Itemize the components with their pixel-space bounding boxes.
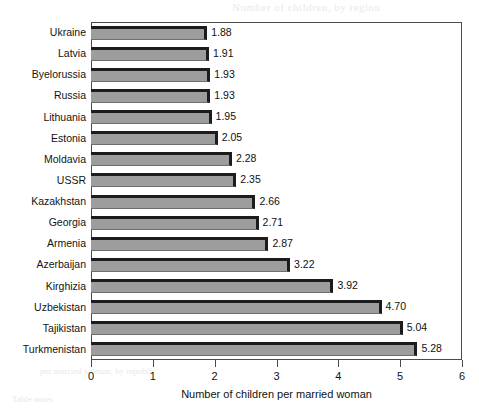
bar: [91, 26, 207, 40]
x-tick-mark: [277, 360, 278, 367]
bar-value-label: 2.71: [263, 217, 283, 228]
bar-row: 1.93: [91, 89, 462, 103]
bar: [91, 321, 403, 335]
bar-row: 3.92: [91, 279, 462, 293]
bleed-through-text: Number of children, by region: [232, 1, 381, 13]
bar-row: 2.87: [91, 237, 462, 251]
x-axis-title: Number of children per married woman: [91, 388, 462, 401]
bar-value-label: 5.28: [421, 343, 441, 354]
bar: [91, 152, 232, 166]
bar-value-label: 1.95: [216, 111, 236, 122]
x-axis: Number of children per married woman 012…: [91, 360, 462, 418]
bar-value-label: 1.93: [214, 90, 234, 101]
x-tick-mark: [91, 360, 92, 367]
category-label: Lithuania: [0, 112, 86, 123]
bar-value-label: 2.66: [259, 196, 279, 207]
category-label: Uzbekistan: [0, 302, 86, 313]
x-tick-label: 2: [212, 370, 218, 382]
bar-row: 2.35: [91, 173, 462, 187]
x-tick-label: 5: [397, 370, 403, 382]
category-label: Ukraine: [0, 27, 86, 38]
bar-chart-figure: Number of children, by region Regional f…: [0, 0, 479, 418]
x-tick-label: 3: [273, 370, 279, 382]
bar-row: 1.88: [91, 26, 462, 40]
bar-value-label: 5.04: [407, 322, 427, 333]
category-label: Moldavia: [0, 154, 86, 165]
category-label: Latvia: [0, 48, 86, 59]
bleed-through-text: Table notes: [12, 394, 53, 404]
bar: [91, 279, 333, 293]
bar: [91, 237, 268, 251]
x-tick-label: 0: [88, 370, 94, 382]
category-label: Armenia: [0, 238, 86, 249]
bar-value-label: 2.87: [272, 238, 292, 249]
bar: [91, 195, 255, 209]
category-label: Kazakhstan: [0, 196, 86, 207]
x-tick-mark: [338, 360, 339, 367]
x-tick-mark: [215, 360, 216, 367]
bar: [91, 47, 209, 61]
bar-row: 2.28: [91, 152, 462, 166]
x-tick-mark: [153, 360, 154, 367]
bar-value-label: 2.05: [222, 132, 242, 143]
bar: [91, 131, 218, 145]
category-label: Turkmenistan: [0, 344, 86, 355]
bar-row: 2.05: [91, 131, 462, 145]
bar: [91, 89, 210, 103]
bar-row: 5.28: [91, 342, 462, 356]
bar-value-label: 3.92: [337, 280, 357, 291]
bar-row: 1.91: [91, 47, 462, 61]
bar-row: 1.95: [91, 110, 462, 124]
bar: [91, 110, 212, 124]
bar: [91, 258, 290, 272]
category-label: Russia: [0, 90, 86, 101]
category-axis: UkraineLatviaByelorussiaRussiaLithuaniaE…: [0, 22, 86, 360]
category-label: Tajikistan: [0, 323, 86, 334]
x-tick-mark: [462, 360, 463, 367]
bar-row: 2.71: [91, 216, 462, 230]
bar-row: 3.22: [91, 258, 462, 272]
bar: [91, 216, 259, 230]
x-tick-label: 4: [335, 370, 341, 382]
bar: [91, 68, 210, 82]
bar-row: 1.93: [91, 68, 462, 82]
bar-value-label: 2.35: [240, 174, 260, 185]
bar-value-label: 1.91: [213, 48, 233, 59]
bars-layer: 1.881.911.931.931.952.052.282.352.662.71…: [91, 22, 462, 360]
bar-value-label: 1.93: [214, 69, 234, 80]
x-tick-label: 1: [150, 370, 156, 382]
bar: [91, 342, 417, 356]
bar-value-label: 3.22: [294, 259, 314, 270]
category-label: Kirghizia: [0, 281, 86, 292]
bar-row: 4.70: [91, 300, 462, 314]
category-label: Estonia: [0, 133, 86, 144]
bar-row: 5.04: [91, 321, 462, 335]
category-label: USSR: [0, 175, 86, 186]
bar-value-label: 2.28: [236, 153, 256, 164]
bar-row: 2.66: [91, 195, 462, 209]
category-label: Azerbaijan: [0, 259, 86, 270]
bar: [91, 173, 236, 187]
bar-value-label: 4.70: [386, 301, 406, 312]
bar: [91, 300, 382, 314]
x-tick-mark: [400, 360, 401, 367]
category-label: Byelorussia: [0, 69, 86, 80]
bar-value-label: 1.88: [211, 27, 231, 38]
x-tick-label: 6: [459, 370, 465, 382]
category-label: Georgia: [0, 217, 86, 228]
